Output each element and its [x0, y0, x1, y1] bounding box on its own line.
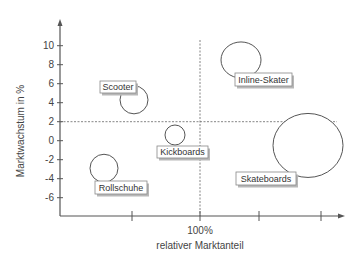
label-text: Inline-Skater [238, 75, 289, 85]
label-text: Rollschuhe [99, 183, 144, 193]
y-tick-label: 10 [43, 40, 55, 51]
bubble-skateboards [273, 113, 343, 177]
x-tick-label: 100% [187, 225, 213, 236]
y-tick-label: 6 [48, 78, 54, 89]
y-axis-arrow-icon [58, 19, 63, 26]
y-tick-label: 4 [48, 97, 54, 108]
bubble-rollschuhe [90, 154, 118, 182]
x-axis-title: relativer Marktanteil [156, 240, 243, 251]
label-text: Skateboards [241, 174, 292, 184]
y-tick-label: 0 [48, 135, 54, 146]
bubbles [90, 42, 343, 182]
y-tick-label: -6 [45, 192, 54, 203]
label-rollschuhe: Rollschuhe [95, 181, 149, 197]
y-tick-label: -4 [45, 173, 54, 184]
x-axis-arrow-icon [338, 214, 345, 219]
y-tick-label: -2 [45, 154, 54, 165]
label-inline-skater: Inline-Skater [235, 73, 294, 89]
label-skateboards: Skateboards [236, 172, 298, 188]
bubble-inline-skater [221, 42, 261, 78]
label-scooter: Scooter [100, 81, 138, 96]
bubble-chart: 1086420-2-4-6100% ScooterInline-SkaterKi… [0, 0, 362, 262]
y-axis-title: Marktwachstum in % [15, 85, 26, 177]
label-text: Scooter [102, 82, 133, 92]
label-kickboards: Kickboards [157, 146, 210, 161]
bubble-labels: ScooterInline-SkaterKickboardsRollschuhe… [95, 73, 298, 197]
label-text: Kickboards [160, 147, 205, 157]
bubble-kickboards [165, 125, 185, 145]
y-tick-label: 8 [48, 59, 54, 70]
y-tick-label: 2 [48, 116, 54, 127]
